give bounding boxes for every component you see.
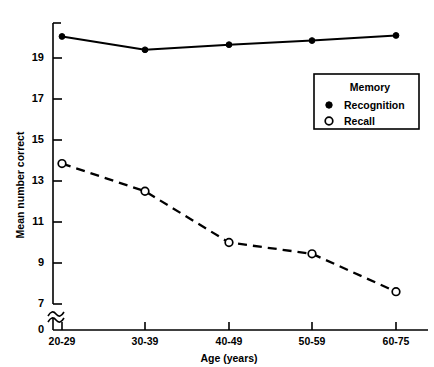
- y-axis-break-icon-2: [48, 312, 64, 316]
- y-tick-7: 7: [38, 297, 62, 309]
- y-tick-11: 11: [32, 215, 62, 227]
- y-tick-label-13: 13: [32, 174, 44, 186]
- y-axis-ticks: 0 7 9 11 13 15: [32, 51, 62, 335]
- data-point: [392, 288, 400, 296]
- y-axis-title: Mean number correct: [14, 131, 26, 238]
- legend-title: Memory: [350, 81, 390, 93]
- chart-canvas: Mean number correct 0 7 9: [0, 0, 434, 367]
- y-tick-15: 15: [32, 133, 62, 145]
- x-tick-label-1: 30-39: [132, 335, 159, 347]
- legend-marker-recognition-icon: [326, 102, 332, 108]
- data-point: [393, 33, 399, 39]
- x-axis-title: Age (years): [200, 352, 257, 364]
- line-chart: Mean number correct 0 7 9: [0, 0, 434, 367]
- y-tick-13: 13: [32, 174, 62, 186]
- data-point: [226, 42, 232, 48]
- y-tick-label-11: 11: [32, 215, 44, 227]
- legend-marker-recall-icon: [325, 117, 333, 125]
- legend-label-recognition: Recognition: [344, 99, 405, 111]
- x-tick-2: 40-49: [216, 322, 243, 347]
- data-point: [142, 47, 148, 53]
- x-axis-ticks: 20-29 30-39 40-49 50-59 60-75: [49, 322, 410, 347]
- x-tick-label-0: 20-29: [49, 335, 76, 347]
- y-tick-label-17: 17: [32, 92, 44, 104]
- x-tick-1: 30-39: [132, 322, 159, 347]
- y-tick-label-0: 0: [38, 323, 44, 335]
- data-point: [308, 250, 316, 258]
- y-tick-9: 9: [38, 256, 62, 268]
- y-axis-break-icon: [48, 318, 64, 322]
- data-point: [58, 160, 66, 168]
- y-tick-label-19: 19: [32, 51, 44, 63]
- x-tick-label-3: 50-59: [299, 335, 326, 347]
- y-tick-label-15: 15: [32, 133, 44, 145]
- series-markers-recognition: [59, 33, 399, 53]
- y-tick-label-7: 7: [38, 297, 44, 309]
- x-tick-3: 50-59: [299, 322, 326, 347]
- y-tick-19: 19: [32, 51, 62, 63]
- x-tick-label-2: 40-49: [216, 335, 243, 347]
- data-point: [225, 239, 233, 247]
- y-tick-label-9: 9: [38, 256, 44, 268]
- axes: [48, 23, 428, 330]
- legend: Memory Recognition Recall: [314, 74, 419, 129]
- x-tick-4: 60-75: [383, 322, 410, 347]
- data-point: [59, 34, 65, 40]
- series-line-recall: [62, 164, 396, 292]
- y-tick-0: 0: [38, 323, 44, 335]
- x-tick-label-4: 60-75: [383, 335, 410, 347]
- y-tick-17: 17: [32, 92, 62, 104]
- legend-label-recall: Recall: [344, 115, 375, 127]
- data-point: [141, 187, 149, 195]
- data-point: [309, 38, 315, 44]
